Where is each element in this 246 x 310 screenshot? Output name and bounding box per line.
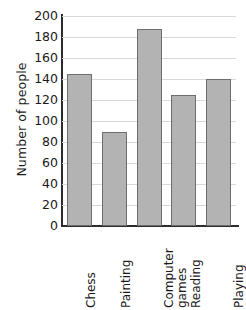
x-tick-label: Computergames — [163, 228, 189, 308]
x-tick-label-line: Chess — [84, 272, 98, 308]
y-tick-label: 0 — [12, 220, 58, 232]
y-tick-label: 20 — [12, 199, 58, 211]
bar — [137, 29, 162, 226]
x-tick-label-line: Painting — [119, 260, 133, 308]
x-tick-label-line: Computer — [162, 248, 176, 308]
y-tick-label: 80 — [12, 136, 58, 148]
y-tick-label: 60 — [12, 157, 58, 169]
y-tick-label: 140 — [12, 73, 58, 85]
x-axis-tick-labels: ChessPaintingComputergamesReadingPlaying… — [62, 228, 236, 310]
plot-area — [62, 16, 236, 226]
x-tick-label: Reading — [190, 259, 203, 308]
x-tick-label-line: Reading — [189, 259, 203, 308]
y-tick-label: 100 — [12, 115, 58, 127]
x-tick-label: Playingfootball — [233, 228, 246, 308]
y-tick-label: 40 — [12, 178, 58, 190]
x-tick-label-line: Playing — [232, 264, 246, 308]
y-tick-label: 120 — [12, 94, 58, 106]
y-tick-label: 180 — [12, 31, 58, 43]
x-tick-label-line: games — [176, 228, 189, 308]
bar-chart: Number of people 20018016014012010080604… — [0, 0, 246, 310]
gridline — [62, 16, 236, 17]
y-tick-label: 160 — [12, 52, 58, 64]
x-tick-label: Chess — [85, 272, 98, 308]
bar — [102, 132, 127, 227]
y-axis-tick-labels: 200180160140120100806040200 — [8, 16, 58, 226]
top-edge-artifact — [70, 0, 240, 3]
y-tick-label: 200 — [12, 10, 58, 22]
bar — [67, 74, 92, 226]
x-tick-label: Painting — [120, 260, 133, 308]
bar — [171, 95, 196, 226]
bar — [206, 79, 231, 226]
